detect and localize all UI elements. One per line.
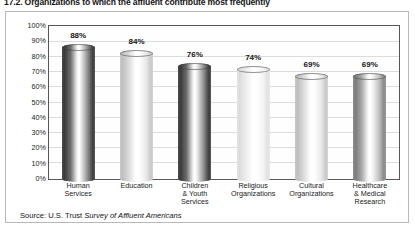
bar: 69% [295,73,328,179]
bar-body [120,53,153,179]
x-axis-labels: Human ServicesEducationChildren & Youth … [49,182,399,212]
bar: 84% [120,50,153,179]
bar-cylinder [120,50,153,179]
bar: 88% [62,44,95,179]
bar-value-label: 69% [362,60,378,69]
bar-top-outline [237,66,270,73]
x-tick-label: Human Services [49,182,107,198]
y-tick-label: 90% [32,36,46,45]
bar-value-label: 76% [187,50,203,59]
y-tick-label: 80% [32,51,46,60]
x-tick-label: Religious Organizations [224,182,282,198]
figure: 17.2. Organizations to which the affluen… [0,0,415,231]
bar-cylinder [295,73,328,179]
y-tick-label: 50% [32,97,46,106]
bar-value-label: 84% [128,37,144,46]
bar-body [237,69,270,179]
x-tick-label: Children & Youth Services [166,182,224,207]
y-tick-label: 10% [32,158,46,167]
bar-cylinder [62,44,95,179]
x-tick-label: Education [107,182,165,190]
bar-cylinder [353,73,386,179]
bar-body [178,66,211,179]
source-italic: Survey of Affluent Americans [84,211,181,220]
y-tick-label: 100% [28,21,46,30]
y-tick-label: 0% [36,174,46,183]
bar-cylinder [237,66,270,179]
bar-body [295,76,328,179]
figure-title: 17.2. Organizations to which the affluen… [4,0,410,7]
bar-value-label: 74% [245,53,261,62]
y-tick-label: 20% [32,143,46,152]
bar-value-label: 69% [303,60,319,69]
source-prefix: Source: U.S. Trust [20,211,84,220]
y-tick-label: 70% [32,66,46,75]
bar-value-label: 88% [70,31,86,40]
bar-series: 88%84%76%74%69%69% [49,26,399,179]
x-tick-label: Cultural Organizations [282,182,340,198]
bar-body [353,76,386,179]
source-note: Source: U.S. Trust Survey of Affluent Am… [20,211,182,220]
bar: 74% [237,66,270,179]
bar-body [62,47,95,179]
y-axis-labels: 100%90%80%70%60%50%40%30%20%10%0% [8,18,46,188]
x-tick-label: Healthcare & Medical Research [341,182,399,207]
y-tick-label: 40% [32,112,46,121]
y-tick-label: 30% [32,128,46,137]
bar: 76% [178,63,211,179]
y-tick-label: 60% [32,82,46,91]
bar: 69% [353,73,386,179]
bar-cylinder [178,63,211,179]
bar-top-outline [178,63,211,70]
